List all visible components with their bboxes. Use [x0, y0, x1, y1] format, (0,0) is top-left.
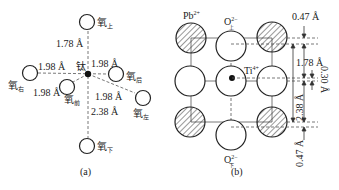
panel-b: Pb2+ O2−上 Ti4+ O2−下 0.47 Å 1.78 Å 0.30 Å… [175, 10, 330, 178]
label-oxygen-right: 氧右 [8, 79, 24, 93]
oxygen-top-atom-b [216, 31, 246, 61]
label-titanium: 钛 [76, 61, 86, 72]
lead-atom-bottom-right [257, 107, 287, 137]
perovskite-structure-figure: 氧上 氧右 氧后 氧前 氧左 氧下 钛 1.78 Å 1.98 Å 1.98 Å… [0, 0, 339, 190]
bond-lines [38, 31, 135, 138]
oxygen-bottom-atom-b [216, 120, 246, 150]
label-oxygen-left: 氧左 [133, 107, 149, 120]
label-oxygen-front: 氧前 [64, 93, 80, 107]
dimension-arrows [291, 26, 314, 140]
label-oxygen-bottom: 氧下 [97, 140, 113, 154]
lead-atom-top-left [176, 23, 206, 53]
oxygen-left-atom [136, 91, 151, 106]
distance-left: 1.98 Å [95, 91, 123, 102]
oxygen-mid-left-atom [175, 66, 205, 96]
dimension-lower: 2.38 Å [294, 93, 305, 121]
label-oxygen-top: 氧上 [97, 16, 113, 29]
distance-top: 1.78 Å [56, 38, 84, 49]
caption-b: (b) [231, 166, 243, 178]
oxygen-right-atom [23, 66, 38, 81]
oxygen-bottom-atom [80, 139, 95, 154]
distance-front: 1.98 Å [33, 87, 61, 98]
oxygen-mid-right-atom [257, 66, 287, 96]
label-lead-ion: Pb2+ [183, 10, 201, 21]
dimension-ti-offset: 0.30 Å [319, 66, 330, 94]
lead-atom-bottom-left [175, 107, 205, 137]
oxygen-mid-center-atom [216, 66, 246, 96]
dimension-top-offset: 0.47 Å [292, 11, 320, 22]
distance-back: 1.98 Å [91, 58, 119, 69]
distance-right: 1.98 Å [38, 61, 66, 72]
label-titanium-ion: Ti4+ [244, 65, 260, 76]
distance-bottom: 2.38 Å [91, 106, 119, 117]
label-oxygen-top-ion: O2−上 [224, 16, 238, 30]
bond-horizontal [38, 73, 108, 74]
dimension-bottom-offset: 0.47 Å [294, 139, 305, 167]
oxygen-top-atom [80, 15, 95, 30]
oxygen-front-atom [60, 80, 75, 95]
panel-a: 氧上 氧右 氧后 氧前 氧左 氧下 钛 1.78 Å 1.98 Å 1.98 Å… [8, 15, 151, 179]
caption-a: (a) [80, 166, 91, 178]
lead-atom-top-right [257, 22, 287, 52]
label-oxygen-back: 氧后 [126, 70, 142, 84]
